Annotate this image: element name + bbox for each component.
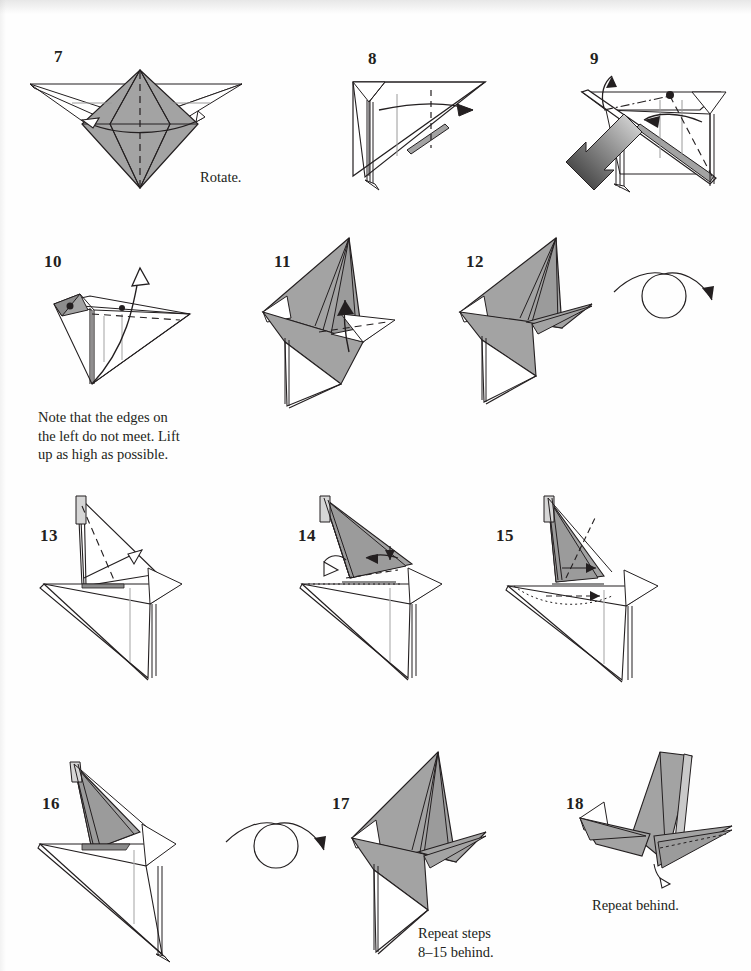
scan-shadow-left — [0, 0, 6, 971]
figure-step-9 — [560, 66, 740, 201]
caption-note-step-10: Note that the edges on the left do not m… — [38, 408, 180, 464]
turn-over-symbol-2 — [222, 812, 342, 882]
scan-shadow-top — [0, 0, 751, 14]
caption-rotate: Rotate. — [200, 168, 241, 187]
caption-repeat-behind: Repeat behind. — [592, 896, 679, 915]
figure-step-14 — [290, 492, 490, 682]
step-number-8: 8 — [368, 50, 377, 67]
figure-step-10 — [30, 258, 220, 403]
figure-step-12 — [440, 234, 630, 414]
figure-step-13 — [30, 492, 230, 682]
figure-step-11 — [245, 234, 435, 414]
caption-repeat-8-15-behind: Repeat steps 8–15 behind. — [418, 924, 494, 961]
diagram-page: 7 Rotate. 8 — [0, 0, 751, 971]
figure-step-15 — [500, 492, 710, 682]
figure-step-18 — [550, 752, 750, 912]
figure-step-16 — [30, 758, 240, 968]
turn-over-symbol-1 — [610, 262, 730, 332]
step-number-9: 9 — [590, 50, 599, 67]
figure-step-8 — [345, 72, 505, 197]
